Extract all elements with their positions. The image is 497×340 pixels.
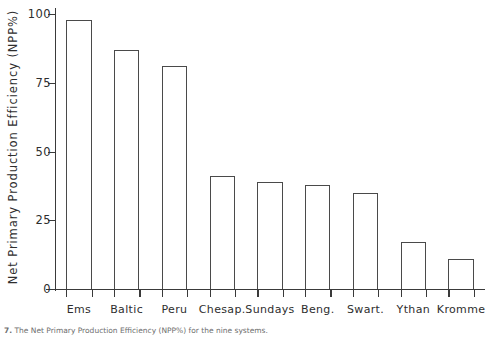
x-tick-mark xyxy=(378,290,379,297)
x-tick-mark xyxy=(257,290,258,297)
figure-caption-number: 7. xyxy=(4,326,12,335)
bar xyxy=(257,182,282,289)
bar xyxy=(114,50,139,289)
x-tick-mark xyxy=(92,290,93,297)
x-tick-label: Ythan xyxy=(397,303,430,316)
bar xyxy=(353,193,378,289)
x-tick-mark xyxy=(162,290,163,297)
x-tick-mark xyxy=(401,290,402,297)
figure-npp-bar-chart: Net Primary Production Efficiency (NPP%)… xyxy=(0,0,497,340)
x-tick-mark xyxy=(474,290,475,297)
x-tick-mark xyxy=(114,290,115,297)
x-tick-label: Ems xyxy=(67,303,91,316)
y-tick-label: 25 xyxy=(36,213,51,227)
x-tick-label: Sundays xyxy=(245,303,294,316)
x-tick-mark xyxy=(448,290,449,297)
x-tick-label: Beng. xyxy=(301,303,335,316)
bar xyxy=(66,20,91,290)
x-tick-label: Peru xyxy=(161,303,187,316)
x-tick-mark xyxy=(353,290,354,297)
x-tick-mark xyxy=(330,290,331,297)
bar xyxy=(210,176,235,289)
x-tick-label: Chesap. xyxy=(199,303,246,316)
bar xyxy=(162,66,187,289)
y-tick-label: 100 xyxy=(28,7,51,21)
x-tick-mark xyxy=(283,290,284,297)
bar xyxy=(401,242,426,289)
y-axis-title: Net Primary Production Efficiency (NPP%) xyxy=(2,2,24,292)
x-tick-label: Baltic xyxy=(110,303,143,316)
x-tick-mark xyxy=(426,290,427,297)
x-tick-mark xyxy=(187,290,188,297)
x-tick-mark xyxy=(210,290,211,297)
x-tick-label: Kromme xyxy=(437,303,486,316)
figure-caption: 7. The Net Primary Production Efficiency… xyxy=(4,326,493,335)
x-axis-line xyxy=(46,289,485,290)
x-tick-mark xyxy=(235,290,236,297)
x-tick-mark xyxy=(139,290,140,297)
x-tick-label: Swart. xyxy=(347,303,384,316)
plot-area: 0255075100 EmsBalticPeruChesap.SundaysBe… xyxy=(55,14,485,290)
bar xyxy=(305,185,330,290)
y-tick-label: 75 xyxy=(36,76,51,90)
bar xyxy=(448,259,473,289)
y-tick-label: 50 xyxy=(36,145,51,159)
y-axis-line xyxy=(55,8,56,291)
x-tick-mark xyxy=(305,290,306,297)
y-tick-label: 0 xyxy=(43,282,51,296)
figure-caption-text: The Net Primary Production Efficiency (N… xyxy=(14,326,267,335)
x-tick-mark xyxy=(66,290,67,297)
